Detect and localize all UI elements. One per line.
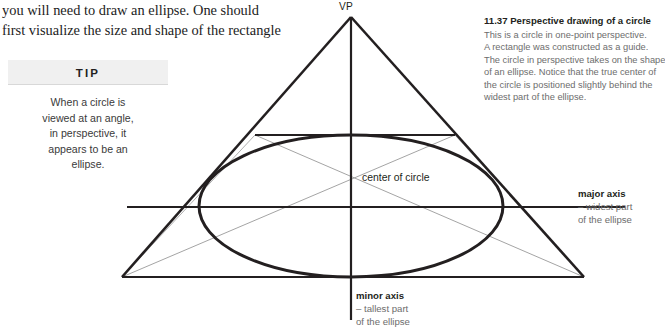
major-axis-label: major axis – widest part of the ellipse — [578, 187, 658, 227]
major-axis-sub-1: – widest part — [578, 200, 658, 213]
minor-axis-label: minor axis – tallest part of the ellipse — [356, 289, 446, 329]
minor-axis-sub-1: – tallest part — [356, 302, 446, 315]
minor-axis-title: minor axis — [356, 289, 446, 302]
vanishing-point-label: VP — [339, 1, 353, 12]
major-axis-title: major axis — [578, 187, 658, 200]
center-of-circle-label: center of circle — [362, 172, 430, 183]
vp-ray-right — [351, 17, 584, 277]
major-axis-sub-2: of the ellipse — [578, 213, 658, 226]
vp-ray-left — [122, 17, 351, 277]
minor-axis-sub-2: of the ellipse — [356, 315, 446, 328]
perspective-triangle — [122, 17, 584, 277]
